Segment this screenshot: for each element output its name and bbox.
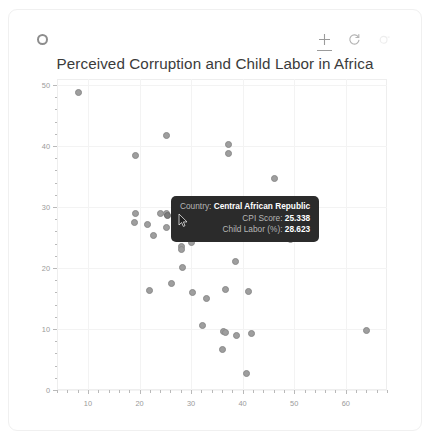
y-tick-major [53, 329, 57, 330]
x-tick-major [346, 390, 347, 394]
grid-line-vertical [346, 79, 347, 390]
scatter-point[interactable] [199, 322, 206, 329]
x-tick-minor [150, 390, 151, 393]
x-tick-minor [67, 390, 68, 393]
x-tick-minor [335, 390, 336, 393]
tooltip-row-child-labor: Child Labor (%): 28.623 [180, 224, 310, 236]
scatter-point[interactable] [163, 132, 170, 139]
x-tick-minor [181, 390, 182, 393]
x-tick-label: 10 [84, 399, 92, 408]
x-tick-major [243, 390, 244, 394]
x-tick-major [140, 390, 141, 394]
x-tick-minor [160, 390, 161, 393]
scatter-point[interactable] [363, 327, 370, 334]
y-tick-major [53, 268, 57, 269]
y-tick-minor [55, 366, 58, 367]
scatter-point[interactable] [245, 288, 252, 295]
x-tick-minor [57, 390, 58, 393]
y-tick-major [53, 85, 57, 86]
grid-line-horizontal [57, 268, 387, 269]
y-tick-minor [55, 244, 58, 245]
tooltip-row-country: Country: Central African Republic [180, 201, 310, 213]
x-tick-minor [387, 390, 388, 393]
x-tick-major [191, 390, 192, 394]
x-tick-minor [98, 390, 99, 393]
crosshair-move-icon [318, 33, 331, 46]
y-tick-minor [55, 292, 58, 293]
x-tick-minor [232, 390, 233, 393]
y-tick-minor [55, 256, 58, 257]
x-tick-minor [315, 390, 316, 393]
grid-line-horizontal [57, 146, 387, 147]
x-tick-minor [263, 390, 264, 393]
x-tick-label: 40 [239, 399, 247, 408]
y-tick-minor [55, 195, 58, 196]
y-tick-minor [55, 280, 58, 281]
scatter-point[interactable] [271, 175, 278, 182]
y-tick-minor [55, 122, 58, 123]
scatter-point[interactable] [75, 89, 82, 96]
y-tick-label: 40 [42, 142, 50, 151]
y-tick-minor [55, 183, 58, 184]
y-tick-minor [55, 231, 58, 232]
scatter-point[interactable] [189, 289, 196, 296]
y-tick-minor [55, 134, 58, 135]
x-tick-label: 20 [135, 399, 143, 408]
x-tick-minor [109, 390, 110, 393]
x-tick-minor [356, 390, 357, 393]
x-tick-minor [129, 390, 130, 393]
x-tick-minor [305, 390, 306, 393]
y-tick-label: 10 [42, 325, 50, 334]
y-tick-major [53, 207, 57, 208]
hover-tooltip: Country: Central African Republic CPI Sc… [171, 196, 319, 242]
x-tick-label: 60 [342, 399, 350, 408]
x-tick-major [88, 390, 89, 394]
help-tool-button[interactable] [376, 30, 393, 49]
chart-title: Perceived Corruption and Child Labor in … [9, 55, 421, 72]
scatter-point[interactable] [144, 221, 151, 228]
scatter-point[interactable] [222, 329, 229, 336]
pan-tool-button[interactable] [316, 30, 333, 49]
y-tick-minor [55, 353, 58, 354]
help-dot-icon [378, 33, 391, 46]
grid-line-vertical [88, 79, 89, 390]
tooltip-row-cpi: CPI Score: 25.338 [180, 213, 310, 225]
tool-group [316, 30, 393, 49]
x-tick-minor [170, 390, 171, 393]
y-tick-label: 20 [42, 264, 50, 273]
grid-line-vertical [140, 79, 141, 390]
scatter-point-hovered[interactable] [164, 212, 171, 219]
tooltip-label: CPI Score: [242, 213, 282, 223]
y-tick-minor [55, 109, 58, 110]
grid-line-horizontal [57, 85, 387, 86]
y-tick-minor [55, 219, 58, 220]
tooltip-label: Child Labor (%): [223, 224, 283, 234]
x-tick-label: 30 [187, 399, 195, 408]
chart-card: Perceived Corruption and Child Labor in … [8, 9, 422, 431]
x-tick-minor [78, 390, 79, 393]
reset-circular-arrow-icon [348, 33, 361, 46]
tooltip-value: 25.338 [285, 213, 310, 223]
y-tick-minor [55, 341, 58, 342]
x-tick-label: 50 [290, 399, 298, 408]
y-tick-minor [55, 378, 58, 379]
scatter-point[interactable] [225, 141, 232, 148]
x-tick-major [294, 390, 295, 394]
x-tick-minor [253, 390, 254, 393]
scatter-point[interactable] [203, 295, 210, 302]
scatter-point[interactable] [222, 286, 229, 293]
scatter-point[interactable] [163, 224, 170, 231]
x-tick-minor [222, 390, 223, 393]
x-tick-minor [366, 390, 367, 393]
x-tick-minor [212, 390, 213, 393]
tooltip-value: Central African Republic [214, 201, 311, 211]
y-tick-minor [55, 305, 58, 306]
reset-tool-button[interactable] [346, 30, 363, 49]
tooltip-label: Country: [180, 201, 211, 211]
y-tick-minor [55, 170, 58, 171]
y-tick-label: 30 [42, 203, 50, 212]
y-tick-minor [55, 158, 58, 159]
x-tick-minor [201, 390, 202, 393]
y-tick-major [53, 146, 57, 147]
y-tick-label: 50 [42, 81, 50, 90]
